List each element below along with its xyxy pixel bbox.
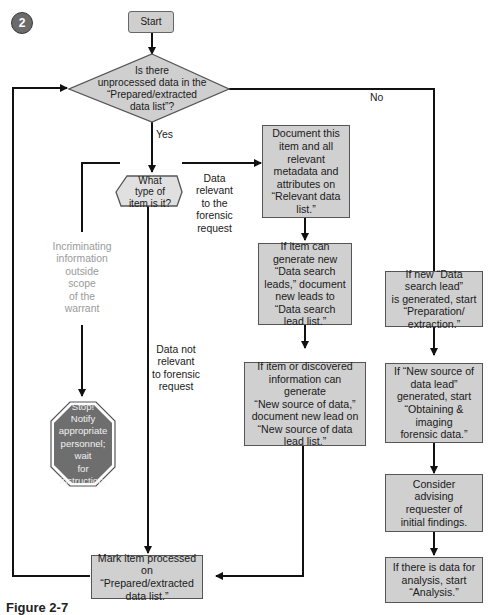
stop-notify-octagon: Stop! Notify appropriate personnel; wait… [54, 408, 112, 480]
decision-unprocessed-data: Is there unprocessed data in the “Prepar… [80, 60, 224, 118]
start-analysis-box: If there is data for analysis, start “An… [385, 557, 483, 603]
start-node: Start [128, 11, 174, 33]
edge-label-yes: Yes [156, 129, 173, 141]
start-obtaining-imaging-box: If “New source of data lead” generated, … [385, 363, 483, 443]
start-preparation-box: If new “Data search lead” is generated, … [385, 271, 483, 327]
consider-advising-box: Consider advising requester of initial f… [385, 474, 483, 532]
step-number-badge: 2 [11, 12, 33, 34]
new-source-of-data-box: If item or discovered information can ge… [244, 362, 366, 446]
edge-label-data-relevant: Data relevant to the forensic request [196, 173, 233, 235]
data-search-leads-box: If item can generate new “Data search le… [258, 243, 352, 325]
figure-caption: Figure 2-7 [6, 600, 68, 615]
decision-item-type: What type of item is it? [118, 175, 182, 209]
edge-label-no: No [370, 92, 383, 104]
mark-processed-box: Mark item processed on “Prepared/extract… [91, 555, 203, 599]
edge-label-data-not-relevant: Data not relevant to forensic request [152, 344, 200, 394]
edge-label-incriminating: Incriminating information outside scope … [52, 241, 112, 315]
document-item-box: Document this item and all relevant meta… [262, 125, 350, 218]
